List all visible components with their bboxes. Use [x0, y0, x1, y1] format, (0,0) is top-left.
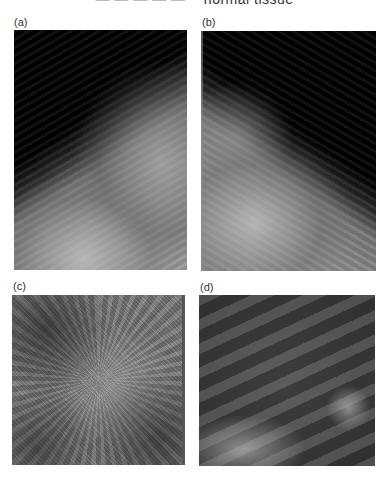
running-header: — — — — — normal tissue	[0, 0, 389, 7]
mammogram-panel-a	[14, 30, 187, 270]
panel-label-d: (d)	[200, 281, 213, 293]
mammogram-panel-b	[201, 31, 376, 271]
texture-panel-c	[12, 295, 185, 465]
running-header-title: normal tissue	[204, 0, 294, 7]
running-header-left: — — — — —	[95, 0, 185, 7]
panel-label-c: (c)	[13, 280, 26, 292]
panel-label-b: (b)	[202, 16, 215, 28]
panel-label-a: (a)	[14, 16, 27, 28]
texture-panel-d	[199, 295, 375, 466]
